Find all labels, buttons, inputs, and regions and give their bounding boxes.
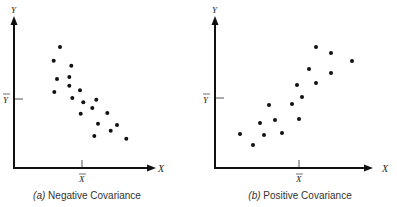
- data-point: [52, 90, 56, 94]
- x-axis-arrow-icon: [364, 165, 373, 172]
- data-point: [67, 75, 71, 79]
- x-axis-label: X: [381, 163, 389, 174]
- data-point: [105, 111, 109, 115]
- data-point: [94, 98, 98, 102]
- data-point: [262, 133, 266, 137]
- data-point: [55, 77, 59, 81]
- data-point: [273, 118, 277, 122]
- y-axis-label: Y: [212, 5, 218, 15]
- covariance-figure: Y X Y X (a) Negative Covariance Y X Y X …: [0, 0, 397, 207]
- scatter-points: [238, 45, 354, 147]
- data-point: [314, 45, 318, 49]
- x-mean-label: X: [295, 174, 302, 184]
- data-point: [329, 71, 333, 75]
- panel-b-positive-covariance: Y X Y X (b) Positive Covariance: [203, 5, 389, 201]
- data-point: [78, 88, 82, 92]
- data-point: [329, 51, 333, 55]
- data-point: [290, 102, 294, 106]
- caption-a: (a) Negative Covariance: [33, 190, 141, 201]
- scatter-points: [52, 45, 129, 141]
- data-point: [79, 112, 83, 116]
- data-point: [92, 134, 96, 138]
- data-point: [350, 59, 354, 63]
- x-mean-label: X: [78, 174, 85, 184]
- data-point: [109, 129, 113, 133]
- data-point: [280, 131, 284, 135]
- x-axis-arrow-icon: [147, 165, 156, 172]
- y-mean-label: Y: [3, 95, 9, 105]
- y-axis-arrow-icon: [212, 16, 219, 25]
- panel-a-negative-covariance: Y X Y X (a) Negative Covariance: [3, 5, 165, 201]
- data-point: [115, 123, 119, 127]
- y-axis-label: Y: [11, 5, 17, 15]
- data-point: [52, 59, 56, 63]
- data-point: [238, 132, 242, 136]
- data-point: [300, 95, 304, 99]
- data-point: [124, 137, 128, 141]
- data-point: [314, 81, 318, 85]
- data-point: [96, 122, 100, 126]
- data-point: [81, 100, 85, 104]
- data-point: [295, 83, 299, 87]
- data-point: [267, 103, 271, 107]
- data-point: [307, 67, 311, 71]
- data-point: [90, 106, 94, 110]
- data-point: [70, 96, 74, 100]
- x-axis-label: X: [157, 163, 165, 174]
- caption-b: (b) Positive Covariance: [248, 190, 352, 201]
- y-mean-label: Y: [203, 95, 209, 105]
- data-point: [58, 45, 62, 49]
- data-point: [251, 143, 255, 147]
- data-point: [69, 64, 73, 68]
- data-point: [258, 121, 262, 125]
- data-point: [297, 117, 301, 121]
- y-axis-arrow-icon: [11, 16, 18, 25]
- data-point: [67, 84, 71, 88]
